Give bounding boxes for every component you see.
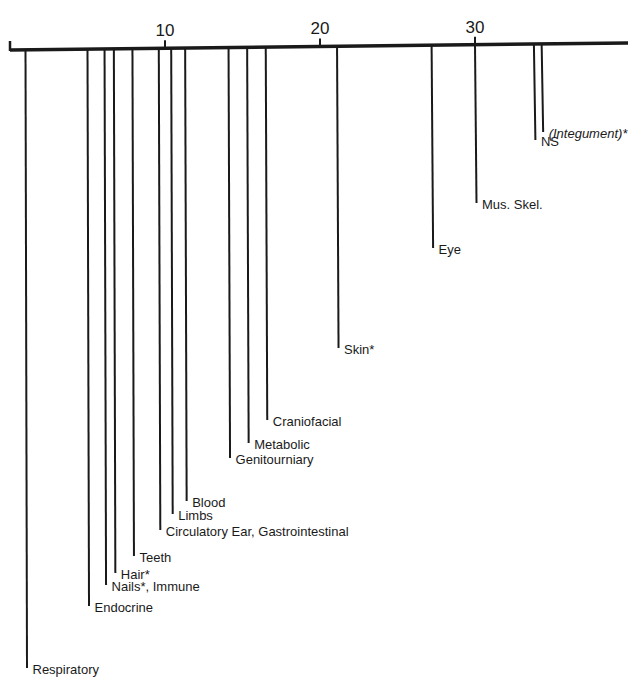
- category-label: Mus. Skel.: [482, 197, 543, 212]
- category-label: (Integument)*: [549, 126, 629, 141]
- category-label: Circulatory Ear, Gastrointestinal: [166, 524, 349, 539]
- data-line: [105, 49, 107, 585]
- data-line: [114, 49, 116, 573]
- tick-label: 20: [311, 19, 330, 38]
- category-label: Endocrine: [95, 600, 154, 615]
- category-label: Genitourniary: [236, 452, 315, 467]
- data-line: [26, 50, 28, 668]
- chart-canvas: 102030 RespiratoryEndocrineNails*, Immun…: [0, 0, 644, 683]
- data-line: [185, 48, 187, 501]
- tick-label: 10: [156, 21, 175, 40]
- category-label: Teeth: [139, 550, 171, 565]
- category-label: Blood: [192, 495, 225, 510]
- data-line: [475, 45, 477, 203]
- data-line: [337, 46, 339, 348]
- x-axis: 102030: [10, 18, 628, 51]
- category-label: Hair*: [121, 567, 150, 582]
- data-line: [229, 48, 231, 458]
- data-line: [534, 44, 536, 140]
- category-label: Eye: [439, 242, 461, 257]
- category-label: Respiratory: [33, 662, 100, 677]
- data-line: [171, 48, 173, 514]
- data-line: [247, 47, 249, 443]
- inverted-line-chart: 102030 RespiratoryEndocrineNails*, Immun…: [0, 0, 644, 683]
- data-line: [432, 45, 434, 248]
- data-line: [542, 44, 544, 132]
- category-label: Limbs: [178, 508, 213, 523]
- category-label: Craniofacial: [273, 414, 342, 429]
- category-label: Skin*: [344, 342, 374, 357]
- data-line: [159, 48, 161, 530]
- data-line: [88, 49, 90, 606]
- data-line: [266, 47, 268, 420]
- tick-label: 30: [466, 18, 485, 37]
- data-lines: [26, 44, 544, 668]
- data-labels: RespiratoryEndocrineNails*, ImmuneHair*T…: [33, 126, 629, 677]
- category-label: Metabolic: [254, 437, 310, 452]
- data-line: [132, 49, 134, 556]
